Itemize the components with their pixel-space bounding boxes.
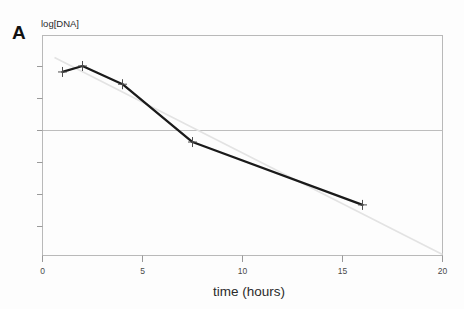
x-tick-label: 5: [140, 266, 145, 276]
series-log-dna: [63, 66, 363, 205]
x-tick-label: 0: [40, 266, 45, 276]
x-tick-label: 10: [238, 266, 248, 276]
axis-frame: [43, 36, 443, 256]
x-axis-label: time (hours): [0, 284, 464, 299]
chart-plot-area: 0 5 10 15 20: [0, 0, 464, 309]
x-tick-label: 20: [438, 266, 448, 276]
x-tick-label: 15: [338, 266, 348, 276]
x-axis-ticks: [43, 256, 443, 263]
x-axis-label-text: time (hours): [179, 284, 285, 299]
x-axis-tick-labels: 0 5 10 15 20: [40, 266, 447, 276]
figure-panel: A log[DNA] 0 5: [0, 0, 464, 309]
series-linear-fit: [55, 58, 443, 255]
y-axis-ticks: [37, 67, 43, 227]
